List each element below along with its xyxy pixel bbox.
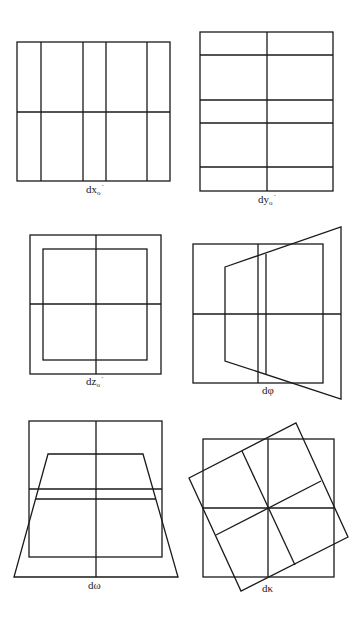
label-dx-text: dx <box>86 183 97 195</box>
label-domega: dω <box>88 579 101 591</box>
label-dx: dxo´ <box>86 183 104 197</box>
label-dy-sup: ´ <box>274 193 276 201</box>
label-dz: dzo´ <box>86 375 103 389</box>
orientation-parameter-figure <box>0 0 362 619</box>
panel-dphi-diagram <box>193 227 341 399</box>
label-dy-text: dy <box>258 193 269 205</box>
label-domega-text: dω <box>88 579 101 591</box>
label-dphi-text: dφ <box>262 384 274 396</box>
label-dz-sup: ´ <box>101 375 103 383</box>
panel-dy-diagram <box>200 32 333 191</box>
panel-dkappa-diagram <box>189 423 348 591</box>
label-dphi: dφ <box>262 384 274 396</box>
label-dz-sub: o <box>96 381 100 389</box>
panel-domega-diagram <box>14 421 178 577</box>
label-dx-sup: ´ <box>102 183 104 191</box>
panel-dx-diagram <box>17 42 170 181</box>
label-dz-text: dz <box>86 375 96 387</box>
label-dkappa: dκ <box>262 582 273 594</box>
panel-dz-diagram <box>30 235 161 374</box>
label-dx-sub: o <box>97 189 101 197</box>
label-dy: dyo´ <box>258 193 276 207</box>
label-dkappa-text: dκ <box>262 582 273 594</box>
label-dy-sub: o <box>269 199 273 207</box>
